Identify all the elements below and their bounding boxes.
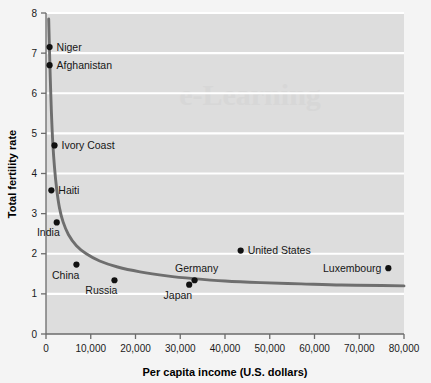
point-marker bbox=[54, 219, 60, 225]
x-tick-label: 30,000 bbox=[165, 343, 196, 354]
y-tick-label: 3 bbox=[31, 208, 37, 219]
y-tick-label: 5 bbox=[31, 128, 37, 139]
y-tick-label: 0 bbox=[31, 329, 37, 340]
data-point: Luxembourg bbox=[323, 262, 391, 274]
x-tick-label: 70,000 bbox=[344, 343, 375, 354]
chart-container: e-Learning 012345678 010,00020,00030,000… bbox=[0, 0, 431, 383]
point-label: Niger bbox=[57, 41, 83, 53]
point-marker bbox=[51, 142, 57, 148]
y-tick-label: 7 bbox=[31, 48, 37, 59]
y-tick-label: 1 bbox=[31, 288, 37, 299]
point-marker bbox=[46, 44, 52, 50]
scatter-plot: e-Learning 012345678 010,00020,00030,000… bbox=[0, 0, 431, 383]
data-point: United States bbox=[238, 244, 311, 256]
point-marker bbox=[111, 277, 117, 283]
point-marker bbox=[186, 282, 192, 288]
x-tick-label: 80,000 bbox=[389, 343, 420, 354]
point-marker bbox=[238, 247, 244, 253]
data-point: Ivory Coast bbox=[51, 139, 114, 151]
y-axis-title: Total fertility rate bbox=[6, 130, 18, 218]
point-label: China bbox=[52, 269, 80, 281]
x-axis-title: Per capita income (U.S. dollars) bbox=[142, 366, 307, 378]
y-tick-label: 6 bbox=[31, 88, 37, 99]
x-tick-label: 50,000 bbox=[254, 343, 285, 354]
x-tick-label: 40,000 bbox=[210, 343, 241, 354]
y-tick-label: 8 bbox=[31, 8, 37, 19]
x-tick-label: 20,000 bbox=[120, 343, 151, 354]
watermark: e-Learning bbox=[179, 78, 321, 111]
x-tick-label: 0 bbox=[43, 343, 49, 354]
point-marker bbox=[385, 265, 391, 271]
point-label: Haiti bbox=[58, 184, 79, 196]
point-marker bbox=[73, 261, 79, 267]
data-point: Afghanistan bbox=[46, 59, 112, 71]
point-marker bbox=[46, 62, 52, 68]
point-label: India bbox=[37, 226, 60, 238]
point-label: Ivory Coast bbox=[62, 139, 115, 151]
y-tick-label: 2 bbox=[31, 248, 37, 259]
point-marker bbox=[191, 277, 197, 283]
point-label: Russia bbox=[85, 284, 117, 296]
point-label: United States bbox=[248, 244, 311, 256]
x-tick-label: 10,000 bbox=[75, 343, 106, 354]
y-tick-label: 4 bbox=[31, 168, 37, 179]
point-label: Japan bbox=[164, 289, 193, 301]
point-label: Germany bbox=[175, 262, 219, 274]
point-marker bbox=[48, 187, 54, 193]
point-label: Luxembourg bbox=[323, 262, 382, 274]
x-tick-label: 60,000 bbox=[299, 343, 330, 354]
point-label: Afghanistan bbox=[57, 59, 113, 71]
